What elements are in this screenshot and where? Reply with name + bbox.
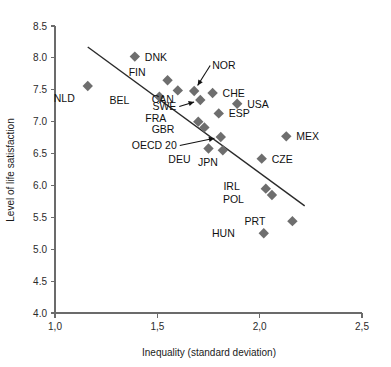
data-point-label: POL (223, 193, 244, 205)
data-point-marker (195, 95, 205, 105)
label-leader-arrowhead (198, 80, 203, 86)
y-axis-title: Level of life satisfaction (5, 118, 16, 221)
data-point-label: CZE (272, 153, 293, 165)
data-point-label: BEL (110, 94, 130, 106)
y-tick-label: 8.0 (33, 52, 47, 63)
y-tick-label: 5.0 (33, 244, 47, 255)
y-tick-label: 6.5 (33, 148, 47, 159)
data-point-label: MEX (296, 130, 319, 142)
x-axis-title: Inequality (standard deviation) (142, 347, 276, 358)
plot-area: 4.04.55.05.56.06.57.07.58.08.51,01,52,02… (0, 0, 391, 367)
data-point-marker (261, 183, 271, 193)
data-point-marker (83, 81, 93, 91)
axes-group: 4.04.55.05.56.06.57.07.58.08.51,01,52,02… (33, 21, 369, 333)
y-tick-label: 7.0 (33, 116, 47, 127)
markers-group (83, 51, 298, 238)
data-point-label: CHE (223, 87, 245, 99)
data-point-marker (130, 51, 140, 61)
y-tick-label: 4.0 (33, 308, 47, 319)
scatter-chart: 4.04.55.05.56.06.57.07.58.08.51,01,52,02… (0, 0, 391, 367)
data-point-label: ESP (229, 107, 250, 119)
trendline-group (88, 47, 305, 206)
data-point-marker (216, 132, 226, 142)
x-tick-label: 1,5 (150, 321, 164, 332)
x-tick-label: 2,0 (253, 321, 267, 332)
x-tick-label: 1,0 (48, 321, 62, 332)
label-leader-arrowhead (188, 101, 194, 106)
y-tick-label: 5.5 (33, 212, 47, 223)
data-point-label: FIN (129, 66, 146, 78)
y-tick-label: 8.5 (33, 21, 47, 32)
data-point-marker (207, 88, 217, 98)
data-point-label: USA (247, 98, 269, 110)
y-tick-label: 6.0 (33, 180, 47, 191)
data-point-label: IRL (223, 180, 240, 192)
y-tick-label: 7.5 (33, 84, 47, 95)
trend-line (88, 47, 305, 206)
data-point-label: HUN (212, 227, 235, 239)
data-point-label: NLD (54, 92, 75, 104)
data-point-marker (162, 75, 172, 85)
data-point-label: PRT (245, 215, 266, 227)
data-point-marker (281, 131, 291, 141)
y-tick-label: 4.5 (33, 276, 47, 287)
data-point-label: OECD 20 (132, 139, 177, 151)
data-point-marker (257, 153, 267, 163)
data-point-label: GBR (152, 123, 175, 135)
data-point-label: JPN (198, 156, 218, 168)
data-point-marker (267, 190, 277, 200)
data-point-marker (259, 228, 269, 238)
x-tick-label: 2,5 (355, 321, 369, 332)
data-point-marker (203, 143, 213, 153)
data-point-label: SWE (152, 100, 176, 112)
leaders-group (179, 66, 214, 146)
data-point-marker (173, 85, 183, 95)
data-point-marker (189, 86, 199, 96)
data-point-label: DEU (168, 153, 190, 165)
point-labels-group: DNKFINNLDCANNORCHEBELSWEUSAESPFRAGBROECD… (54, 51, 319, 240)
data-point-label: NOR (212, 59, 236, 71)
data-point-label: FRA (145, 112, 166, 124)
data-point-marker (287, 216, 297, 226)
data-point-label: DNK (145, 51, 167, 63)
data-point-marker (218, 145, 228, 155)
data-point-marker (214, 108, 224, 118)
